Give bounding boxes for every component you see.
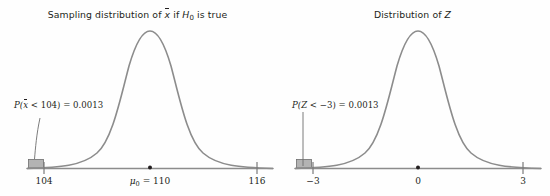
probability-annotation-z: P(Z < −3) = 0.0013 [292, 100, 379, 110]
sampling-distribution-plot [0, 0, 275, 196]
mean-marker-dot-z [416, 166, 420, 170]
x-bar-letter-annotation: x [23, 100, 28, 110]
panel-z-distribution: Distribution of Z P(Z < −3) = 0.0013 −3 … [275, 0, 550, 196]
mean-marker-dot [148, 166, 152, 170]
prob-relation: < [28, 100, 41, 110]
tick-label-minus3: −3 [306, 176, 319, 186]
z-distribution-plot [275, 0, 550, 196]
tick-label-104: 104 [35, 176, 52, 186]
prob-p: P( [14, 100, 23, 110]
prob-close-z: ) = [332, 100, 348, 110]
tick-label-mu0: μ0 = 110 [130, 176, 171, 186]
shaded-tail-region-z [297, 160, 312, 169]
tick-label-3: 3 [520, 176, 526, 186]
x-bar-symbol-annotation: x [23, 100, 28, 110]
prob-value-z: 0.0013 [349, 100, 379, 110]
shaded-tail-region [29, 160, 44, 169]
statistics-figure: Sampling distribution of x if H0 is true… [0, 0, 550, 196]
mu-symbol: μ [130, 176, 136, 186]
prob-close: ) = [57, 100, 73, 110]
tick-label-116: 116 [248, 176, 265, 186]
overbar-annotation [24, 99, 27, 100]
annotation-leader-line [35, 118, 41, 159]
tick-label-0: 0 [415, 176, 421, 186]
prob-cutoff-z: −3 [320, 100, 333, 110]
prob-p-z: P( [292, 100, 301, 110]
prob-relation-z: < [307, 100, 320, 110]
panel-sampling-distribution: Sampling distribution of x if H0 is true… [0, 0, 275, 196]
mu-subscript: 0 [136, 180, 140, 188]
prob-cutoff: 104 [41, 100, 57, 110]
prob-value: 0.0013 [73, 100, 103, 110]
probability-annotation-xbar: P(x < 104) = 0.0013 [14, 100, 103, 110]
